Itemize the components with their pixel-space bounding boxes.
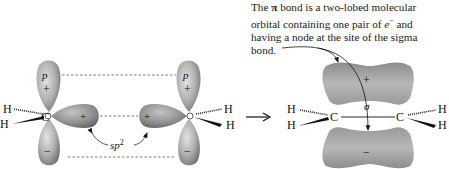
pi-h-upper-right: H: [438, 102, 447, 116]
sp2-left-arrow-icon: [92, 133, 108, 145]
right-h-lower: H: [226, 118, 235, 132]
right-p-label: p: [182, 69, 189, 81]
left-sp2-plus: +: [80, 110, 86, 122]
right-hashed-bond: [196, 109, 222, 114]
pi-left-carbon: C: [330, 110, 338, 124]
pi-left-wedge-bond: [298, 117, 329, 126]
right-sp2-plus: +: [144, 110, 150, 122]
right-lower-minus: −: [184, 144, 191, 158]
right-upper-plus: +: [184, 82, 191, 96]
left-p-lower-lobe: [38, 119, 60, 165]
pi-lower-minus: −: [363, 145, 370, 159]
pi-right-wedge-bond: [407, 118, 436, 128]
reaction-arrow-icon: [246, 113, 270, 121]
left-p-label: p: [41, 69, 48, 81]
pi-h-lower-right: H: [438, 118, 447, 132]
left-lower-minus: −: [44, 144, 51, 158]
pi-upper-plus: +: [363, 73, 370, 87]
leader-arrow-to-pi-icon: [282, 47, 338, 62]
left-carbon-group: p + − + C H H: [0, 61, 99, 166]
right-wedge-bond: [194, 117, 222, 127]
pi-right-carbon: C: [396, 110, 404, 124]
left-hashed-bond: [14, 109, 43, 114]
pi-left-hashed-bond: [300, 110, 328, 115]
pi-h-lower-left: H: [287, 118, 296, 132]
left-upper-plus: +: [43, 82, 50, 96]
sp2-right-arrow-icon: [134, 133, 147, 145]
orbital-diagram: p + − + C H H p + − + H H sp2 +: [0, 0, 449, 169]
left-h-lower: H: [0, 117, 9, 131]
left-h-upper: H: [3, 102, 12, 116]
pi-right-hashed-bond: [408, 110, 436, 115]
sp2-label: sp2: [110, 138, 124, 151]
right-p-lower-lobe: [178, 119, 200, 165]
left-wedge-bond: [12, 116, 44, 124]
left-sp2-lobe: [51, 104, 99, 128]
sp2-annotation: sp2: [92, 133, 147, 151]
right-h-upper: H: [224, 102, 233, 116]
right-carbon-group: p + − + H H: [139, 61, 235, 166]
pi-h-upper-left: H: [287, 102, 296, 116]
pi-bond-molecule: + − σ C C H H H H: [287, 62, 447, 168]
